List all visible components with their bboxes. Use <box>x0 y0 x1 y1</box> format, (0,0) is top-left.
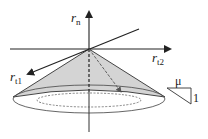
label-rn: rn <box>71 10 81 27</box>
label-one: 1 <box>193 91 199 105</box>
label-rt2: rt2 <box>152 50 164 67</box>
label-mu: μ <box>175 74 181 88</box>
friction-cone-diagram: rn rt2 rt1 μ 1 <box>0 0 208 139</box>
slope-triangle <box>167 88 191 104</box>
label-rt1: rt1 <box>10 69 22 86</box>
